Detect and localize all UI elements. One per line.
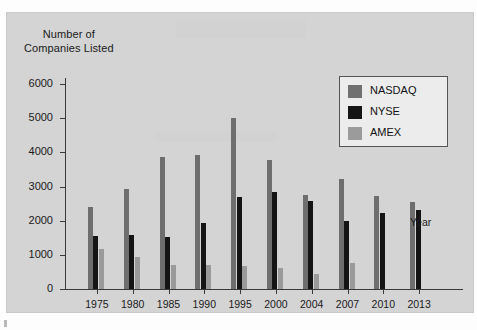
bar-amex-1980: [135, 257, 140, 289]
bar-amex-2000: [278, 268, 283, 289]
y-axis-tick: 1000: [60, 255, 66, 256]
bar-amex-2007: [350, 263, 355, 289]
bar-nasdaq-2000: [267, 160, 272, 289]
legend-swatch-icon: [348, 85, 362, 98]
x-axis-tick-label: 1985: [157, 298, 180, 310]
y-axis-tick-label: 1000: [29, 248, 53, 260]
x-axis-tick-label: 1980: [121, 298, 144, 310]
bar-nasdaq-1975: [88, 207, 93, 289]
x-axis-title: Year: [410, 216, 431, 228]
x-axis-line: [65, 289, 463, 290]
y-axis-title: Number ofCompanies Listed: [24, 28, 114, 55]
y-axis-tick-label: 2000: [29, 214, 53, 226]
bar-nyse-2007: [344, 221, 349, 289]
bar-nasdaq-2004: [303, 195, 308, 289]
bar-amex-2004: [314, 274, 319, 289]
bar-nasdaq-1985: [160, 157, 165, 289]
chart-legend: NASDAQNYSEAMEX: [339, 76, 448, 147]
bar-amex-1990: [206, 265, 211, 289]
scan-artifact: [4, 320, 7, 327]
x-axis-tick: [419, 289, 420, 294]
bar-nyse-2000: [272, 192, 277, 289]
y-axis-tick: 0: [60, 289, 66, 290]
y-axis-title-line-1: Number of: [24, 28, 114, 42]
bar-nyse-1975: [93, 236, 98, 289]
x-axis-tick: [133, 289, 134, 294]
x-axis-tick-label: 2010: [372, 298, 395, 310]
bar-nyse-1985: [165, 237, 170, 289]
x-axis-tick: [240, 289, 241, 294]
x-axis-tick-label: 2007: [336, 298, 359, 310]
y-axis-tick-label: 4000: [29, 145, 53, 157]
y-axis-tick: 4000: [60, 152, 66, 153]
y-axis-line: [65, 78, 66, 290]
x-axis-tick-label: 2000: [264, 298, 287, 310]
x-axis-tick: [276, 289, 277, 294]
x-axis-tick-label: 1995: [228, 298, 251, 310]
y-axis-tick-label: 5000: [29, 111, 53, 123]
legend-label: AMEX: [370, 126, 401, 138]
bar-nasdaq-1980: [124, 189, 129, 289]
x-axis-tick: [169, 289, 170, 294]
x-axis-tick: [348, 289, 349, 294]
bar-nyse-2004: [308, 201, 313, 289]
legend-label: NASDAQ: [370, 84, 416, 96]
y-axis-tick-label: 6000: [29, 77, 53, 89]
y-axis-tick: 6000: [60, 84, 66, 85]
x-axis-tick: [383, 289, 384, 294]
x-axis-tick-label: 1990: [193, 298, 216, 310]
x-axis-tick-label: 2013: [407, 298, 430, 310]
y-axis-title-line-2: Companies Listed: [24, 42, 114, 56]
y-axis-tick: 3000: [60, 187, 66, 188]
bar-nyse-2010: [380, 213, 385, 289]
bar-nyse-1990: [201, 223, 206, 289]
bar-nasdaq-2010: [374, 196, 379, 289]
scanned-page: Number ofCompanies Listed 01000200030004…: [0, 0, 477, 330]
legend-swatch-icon: [348, 127, 362, 140]
x-axis-tick-label: 1975: [85, 298, 108, 310]
bar-amex-1995: [242, 266, 247, 289]
x-axis-tick: [97, 289, 98, 294]
bar-amex-1975: [99, 249, 104, 289]
bar-nasdaq-2007: [339, 179, 344, 289]
bar-nyse-1980: [129, 235, 134, 289]
bar-nyse-1995: [237, 197, 242, 289]
bar-nasdaq-2013: [410, 202, 415, 289]
y-axis-tick-label: 0: [47, 282, 53, 294]
y-axis-tick: 5000: [60, 118, 66, 119]
scan-artifact: [176, 20, 306, 38]
chart-figure-panel: Number ofCompanies Listed 01000200030004…: [6, 12, 474, 313]
x-axis-tick: [312, 289, 313, 294]
y-axis-tick-label: 3000: [29, 180, 53, 192]
x-axis-tick: [204, 289, 205, 294]
y-axis-tick: 2000: [60, 221, 66, 222]
legend-label: NYSE: [370, 105, 400, 117]
x-axis-tick-label: 2004: [300, 298, 323, 310]
bar-nasdaq-1995: [231, 118, 236, 289]
bar-nasdaq-1990: [195, 155, 200, 289]
bar-amex-1985: [171, 265, 176, 289]
legend-swatch-icon: [348, 106, 362, 119]
